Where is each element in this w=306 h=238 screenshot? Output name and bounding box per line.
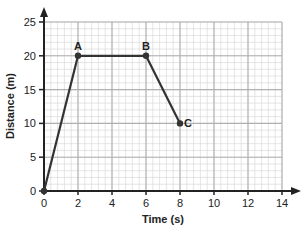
y-tick-label: 25 (24, 16, 36, 28)
y-tick-label: 0 (30, 185, 36, 197)
distance-time-chart: 024681012140510152025 Time (s) Distance … (0, 0, 306, 238)
data-point (75, 53, 81, 59)
y-tick-label: 5 (30, 151, 36, 163)
x-tick-label: 4 (109, 197, 115, 209)
point-label-c: C (184, 117, 192, 129)
data-point (41, 188, 47, 194)
x-tick-label: 0 (41, 197, 47, 209)
x-tick-label: 14 (276, 197, 288, 209)
x-tick-label: 8 (177, 197, 183, 209)
x-axis-arrow-icon (291, 187, 301, 195)
point-label-b: B (142, 40, 150, 52)
y-tick-label: 15 (24, 84, 36, 96)
y-tick-label: 20 (24, 50, 36, 62)
data-series: ABC (41, 40, 192, 194)
x-tick-label: 12 (242, 197, 254, 209)
y-tick-label: 10 (24, 117, 36, 129)
data-point (177, 120, 183, 126)
x-tick-label: 2 (75, 197, 81, 209)
point-label-a: A (74, 40, 82, 52)
y-axis-title: Distance (m) (4, 73, 16, 139)
data-point (143, 53, 149, 59)
x-tick-label: 6 (143, 197, 149, 209)
x-axis-title: Time (s) (142, 213, 184, 225)
y-axis-arrow-icon (40, 7, 48, 17)
x-tick-label: 10 (208, 197, 220, 209)
